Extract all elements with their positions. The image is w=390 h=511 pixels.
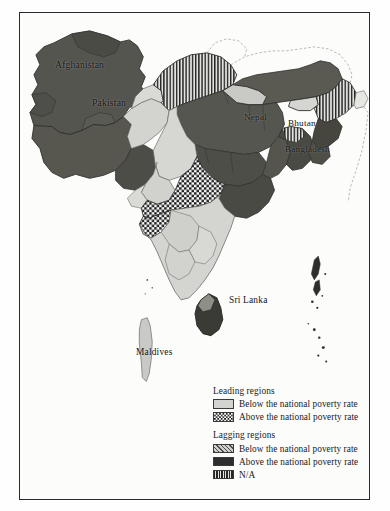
legend-swatch-diagonal-hatch xyxy=(213,444,234,454)
label-pakistan: Pakistan xyxy=(92,97,126,108)
label-bangladesh: Bangladesh xyxy=(285,144,330,154)
legend-swatch-checkerboard xyxy=(213,412,234,422)
legend-label: Below the national poverty rate xyxy=(239,444,358,454)
legend-item-lagging-na: N/A xyxy=(213,468,370,480)
legend-item-lagging-below: Below the national poverty rate xyxy=(213,442,370,454)
legend-item-leading-above: Above the national poverty rate xyxy=(213,411,370,423)
legend-swatch-vertical-hatch xyxy=(213,470,234,480)
legend-label: Above the national poverty rate xyxy=(239,412,358,422)
legend-group-lagging: Lagging regions Below the national pover… xyxy=(211,429,370,480)
legend-group-leading: Leading regions Below the national pover… xyxy=(211,385,370,423)
legend-item-lagging-above: Above the national poverty rate xyxy=(213,455,370,467)
legend-group-title: Lagging regions xyxy=(213,429,370,441)
label-bhutan: Bhutan xyxy=(288,118,316,128)
label-afghanistan: Afghanistan xyxy=(55,59,104,70)
legend-swatch-solid-dark xyxy=(213,457,234,467)
legend-swatch-solid-light-gray xyxy=(213,399,234,409)
map-stage: Afghanistan Pakistan Nepal Bhutan Bangla… xyxy=(20,13,369,499)
label-sri-lanka: Sri Lanka xyxy=(229,295,268,305)
figure-root: Afghanistan Pakistan Nepal Bhutan Bangla… xyxy=(0,0,390,511)
label-maldives: Maldives xyxy=(136,347,173,357)
map-frame: Afghanistan Pakistan Nepal Bhutan Bangla… xyxy=(19,12,370,500)
legend-label: N/A xyxy=(239,470,255,480)
legend-item-leading-below: Below the national poverty rate xyxy=(213,398,370,410)
label-nepal: Nepal xyxy=(244,112,267,122)
legend-group-title: Leading regions xyxy=(213,385,370,397)
legend-label: Below the national poverty rate xyxy=(239,399,358,409)
map-legend: Leading regions Below the national pover… xyxy=(211,385,370,487)
legend-label: Above the national poverty rate xyxy=(239,457,358,467)
